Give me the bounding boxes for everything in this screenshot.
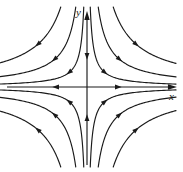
phase-portrait-figure: x y [0, 0, 183, 172]
separatrix-arrow-1 [85, 114, 90, 121]
separatrix-arrow-2 [52, 85, 59, 90]
trajectory-curve [113, 7, 176, 63]
separatrix-arrow-0 [85, 53, 90, 60]
x-axis-label: x [168, 90, 174, 102]
phase-portrait-canvas: x y [0, 0, 183, 172]
y-axis-label: y [75, 6, 81, 18]
separatrix-arrow-3 [115, 85, 122, 90]
trajectory-curve [0, 7, 76, 77]
trajectory-curve [0, 111, 61, 167]
trajectory-curve [98, 7, 176, 77]
x-axis-arrowhead [168, 84, 177, 89]
y-axis-arrowhead [84, 11, 89, 20]
trajectory-curve [0, 97, 76, 167]
trajectory-curve [113, 111, 176, 167]
trajectory-curve [98, 97, 176, 167]
trajectory-curve [0, 7, 61, 63]
